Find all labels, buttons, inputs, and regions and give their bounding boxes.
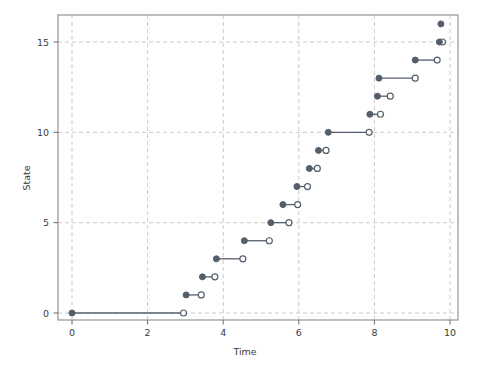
plot-frame [58, 15, 458, 320]
x-tick-label: 0 [69, 327, 75, 338]
y-tick-label: 10 [37, 127, 49, 138]
step-segment [183, 292, 204, 298]
step-segment [213, 256, 245, 262]
segment-start-filled-marker [315, 147, 321, 153]
x-tick-label: 6 [296, 327, 302, 338]
axes-frame [58, 15, 458, 320]
step-segment [376, 75, 418, 81]
segment-start-filled-marker [436, 39, 442, 45]
segment-end-open-marker [181, 310, 187, 316]
step-segment [69, 310, 187, 316]
step-segment [268, 220, 292, 226]
y-tick-label: 15 [37, 37, 49, 48]
segment-start-filled-marker [280, 202, 286, 208]
step-segment [367, 111, 384, 117]
segment-end-open-marker [295, 202, 301, 208]
y-tick-label: 5 [43, 217, 49, 228]
segment-end-open-marker [212, 274, 218, 280]
y-tick-label: 0 [43, 308, 49, 319]
segment-start-filled-marker [325, 129, 331, 135]
segment-end-open-marker [412, 75, 418, 81]
y-axis-title: State [21, 165, 32, 190]
x-tick-label: 4 [220, 327, 226, 338]
step-segment [241, 238, 272, 244]
step-segment [280, 202, 301, 208]
segment-end-open-marker [323, 147, 329, 153]
step-plot: 0246810051015 Time State [0, 0, 480, 371]
segment-start-filled-marker [367, 111, 373, 117]
segment-start-filled-marker [376, 75, 382, 81]
step-segment [294, 184, 311, 190]
step-segment [325, 129, 372, 135]
step-segment [438, 21, 444, 27]
step-segment [374, 93, 393, 99]
segment-end-open-marker [366, 129, 372, 135]
segment-end-open-marker [434, 57, 440, 63]
step-segment [199, 274, 217, 280]
step-segment [436, 39, 445, 45]
segment-end-open-marker [240, 256, 246, 262]
grid-layer [58, 15, 458, 320]
x-tick-label: 2 [145, 327, 151, 338]
tick-labels-layer: 0246810051015 [37, 37, 456, 339]
segment-start-filled-marker [199, 274, 205, 280]
segment-end-open-marker [377, 111, 383, 117]
segment-end-open-marker [304, 184, 310, 190]
x-tick-label: 8 [371, 327, 377, 338]
segment-start-filled-marker [374, 93, 380, 99]
segment-end-open-marker [286, 220, 292, 226]
segment-end-open-marker [387, 93, 393, 99]
segment-end-open-marker [266, 238, 272, 244]
segment-start-filled-marker [412, 57, 418, 63]
segment-start-filled-marker [69, 310, 75, 316]
step-segment [412, 57, 440, 63]
segment-end-open-marker [314, 165, 320, 171]
data-series-layer [69, 21, 445, 316]
segment-start-filled-marker [241, 238, 247, 244]
x-axis-title: Time [232, 346, 256, 357]
segment-start-filled-marker [213, 256, 219, 262]
x-tick-label: 10 [444, 327, 456, 338]
segment-start-filled-marker [183, 292, 189, 298]
step-segment [315, 147, 329, 153]
tick-marks [54, 42, 451, 325]
segment-start-filled-marker [294, 184, 300, 190]
segment-start-filled-marker [438, 21, 444, 27]
step-segment [306, 165, 320, 171]
segment-start-filled-marker [268, 220, 274, 226]
figure-canvas: 0246810051015 Time State [0, 0, 480, 371]
segment-end-open-marker [198, 292, 204, 298]
segment-start-filled-marker [306, 165, 312, 171]
